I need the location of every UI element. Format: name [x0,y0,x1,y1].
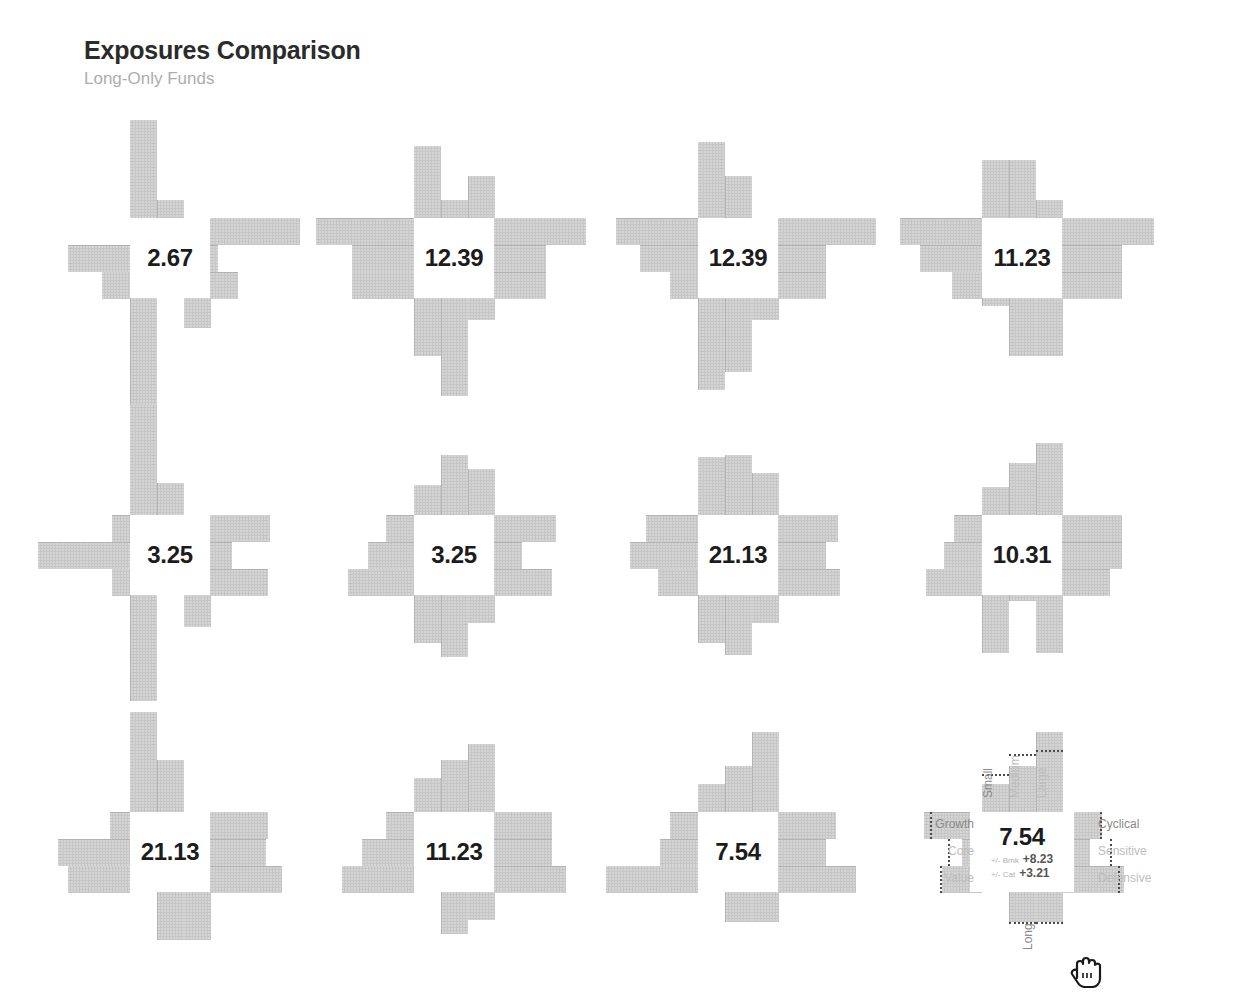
bar-up-0 [130,712,157,812]
axis-label-bottom-2: Long [1021,923,1035,950]
pinwheel-arms: 7.54 [588,702,888,992]
tile-center-hub: 11.23 [414,812,494,892]
pinwheel-chart-tile[interactable]: 11.23 [304,702,604,992]
bar-left-0 [112,569,130,596]
bar-right-1 [210,839,266,866]
bar-right-1 [494,839,552,866]
pinwheel-chart-tile[interactable]: 7.54 [588,702,888,992]
pinwheel-chart-tile[interactable]: 2.67 [20,108,320,408]
bar-left-0 [352,272,414,299]
bar-up-0 [982,487,1009,515]
bar-down-1 [725,298,752,372]
bar-left-1 [660,839,698,866]
delta-value-bmk: +8.23 [1023,853,1053,867]
bar-left-0 [952,272,982,299]
bar-right-1 [1062,245,1122,272]
bar-up-0 [414,485,441,515]
pinwheel-chart-grid: 2.6712.3912.3911.233.253.2521.1310.3121.… [0,108,1233,988]
bar-left-0 [348,569,414,596]
bar-right-1 [1062,542,1122,569]
bar-left-0 [342,866,414,893]
bar-down-1 [157,892,184,940]
bar-right-0 [210,218,300,245]
delta-value-cat: +3.21 [1019,867,1049,881]
bar-right-0 [1062,218,1154,245]
bar-down-1 [441,298,468,396]
bar-up-0 [982,160,1009,218]
bar-down-2 [698,595,725,643]
bar-up-0 [130,405,157,515]
pinwheel-chart-tile[interactable]: 3.25 [20,405,320,705]
bar-down-1 [441,892,468,934]
benchmark-reference-left-0 [940,866,942,893]
exposure-value: 12.39 [425,244,484,272]
bar-left-0 [102,272,130,299]
exposure-value: 21.13 [141,838,200,866]
bar-left-2 [900,218,982,245]
pinwheel-arms: 21.13 [20,702,320,992]
bar-down-1 [1009,892,1036,922]
bar-up-2 [752,473,779,515]
bar-down-2 [414,298,441,356]
bar-right-2 [494,569,552,596]
bar-right-1 [210,245,218,272]
tile-center-hub: 12.39 [414,218,494,298]
bar-left-0 [68,866,130,893]
bar-right-1 [494,245,546,272]
pinwheel-chart-tile[interactable]: 11.23 [872,108,1172,408]
bar-left-2 [110,812,130,839]
bar-left-1 [38,542,130,569]
pinwheel-chart-tile[interactable]: 7.54+/- Bmk+8.23+/- Cat+3.21SmallMediumL… [872,702,1172,992]
bar-up-1 [1009,463,1036,515]
bar-right-2 [778,569,840,596]
axis-label-right-1: Sensitive [1098,844,1147,858]
delta-row-cat: +/- Cat+3.21 [991,867,1053,881]
bar-left-1 [944,542,982,569]
bar-down-1 [1009,298,1036,356]
bar-right-0 [494,218,586,245]
bar-up-2 [752,732,779,812]
bar-down-0 [468,892,495,920]
bar-up-1 [441,760,468,812]
bar-down-0 [1036,298,1063,356]
pinwheel-arms: 3.25 [304,405,604,705]
bar-down-2 [982,595,1009,653]
pinwheel-arms: 3.25 [20,405,320,705]
bar-down-0 [1036,595,1063,653]
bar-right-1 [494,542,522,569]
exposure-value: 3.25 [147,541,193,569]
pinwheel-arms: 11.23 [304,702,604,992]
axis-label-left-1: Core [948,844,974,858]
bar-down-0 [184,595,211,627]
page-title: Exposures Comparison [84,36,361,65]
axis-label-left-2: Growth [935,817,974,831]
bar-left-1 [362,839,414,866]
pinwheel-chart-tile[interactable]: 12.39 [304,108,604,408]
bar-right-2 [778,866,856,893]
axis-label-top-2: Large [1035,767,1049,798]
bar-up-2 [468,744,495,812]
bar-left-1 [68,245,130,272]
bar-up-1 [1009,160,1036,218]
bar-right-0 [210,515,270,542]
bar-right-2 [210,866,282,893]
bar-left-0 [658,569,698,596]
bar-right-2 [210,272,238,299]
delta-row-bmk: +/- Bmk+8.23 [991,853,1053,867]
bar-right-1 [778,245,826,272]
bar-up-0 [130,120,157,218]
delta-label-bmk: +/- Bmk [991,856,1019,865]
pinwheel-chart-tile[interactable]: 10.31 [872,405,1172,705]
exposure-value: 12.39 [709,244,768,272]
page-header: Exposures Comparison Long-Only Funds [84,36,361,88]
axis-label-right-2: Defensive [1098,871,1151,885]
bar-right-0 [778,812,836,839]
pinwheel-chart-tile[interactable]: 3.25 [304,405,604,705]
bar-left-1 [352,245,414,272]
exposure-value: 21.13 [709,541,768,569]
pinwheel-chart-tile[interactable]: 12.39 [588,108,888,408]
pinwheel-chart-tile[interactable]: 21.13 [588,405,888,705]
pinwheel-chart-tile[interactable]: 21.13 [20,702,320,992]
bar-up-1 [441,455,468,515]
bar-right-2 [1062,569,1110,596]
